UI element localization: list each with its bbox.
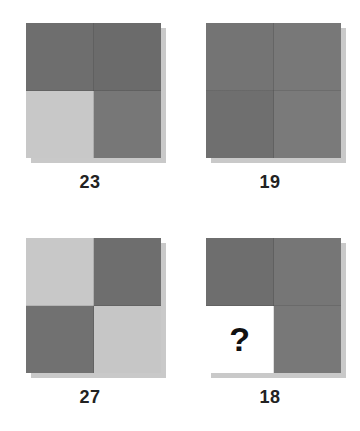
quadrant-bottom-left[interactable]	[26, 306, 94, 374]
tile-label: 18	[180, 387, 360, 408]
quadrant-bottom-left[interactable]	[26, 91, 94, 159]
quadrant-top-right[interactable]	[274, 23, 342, 91]
quadrant-top-right[interactable]	[274, 238, 342, 306]
quadrant-top-left[interactable]	[26, 238, 94, 306]
tile-label: 19	[180, 172, 360, 193]
puzzle-cell-2: 19	[180, 0, 360, 215]
tile-quadrants	[26, 23, 161, 158]
quadrant-bottom-right[interactable]	[274, 91, 342, 159]
quadrant-bottom-left-unknown[interactable]: ?	[206, 306, 274, 374]
quadrant-bottom-right[interactable]	[274, 306, 342, 374]
puzzle-grid: 23 19 27	[0, 0, 360, 431]
quadrant-bottom-left[interactable]	[206, 91, 274, 159]
tile-label: 27	[0, 387, 180, 408]
puzzle-cell-3: 27	[0, 215, 180, 430]
puzzle-cell-1: 23	[0, 0, 180, 215]
quadrant-bottom-right[interactable]	[94, 306, 162, 374]
tile-quadrants	[26, 238, 161, 373]
quadrant-top-left[interactable]	[26, 23, 94, 91]
tile-quadrants: ?	[206, 238, 341, 373]
tile-19[interactable]	[206, 23, 341, 158]
tile-27[interactable]	[26, 238, 161, 373]
tile-quadrants	[206, 23, 341, 158]
quadrant-top-right[interactable]	[94, 23, 162, 91]
tile-18[interactable]: ?	[206, 238, 341, 373]
puzzle-cell-4: ? 18	[180, 215, 360, 430]
quadrant-top-right[interactable]	[94, 238, 162, 306]
quadrant-top-left[interactable]	[206, 238, 274, 306]
quadrant-bottom-right[interactable]	[94, 91, 162, 159]
question-mark: ?	[229, 322, 250, 356]
tile-23[interactable]	[26, 23, 161, 158]
tile-label: 23	[0, 172, 180, 193]
quadrant-top-left[interactable]	[206, 23, 274, 91]
